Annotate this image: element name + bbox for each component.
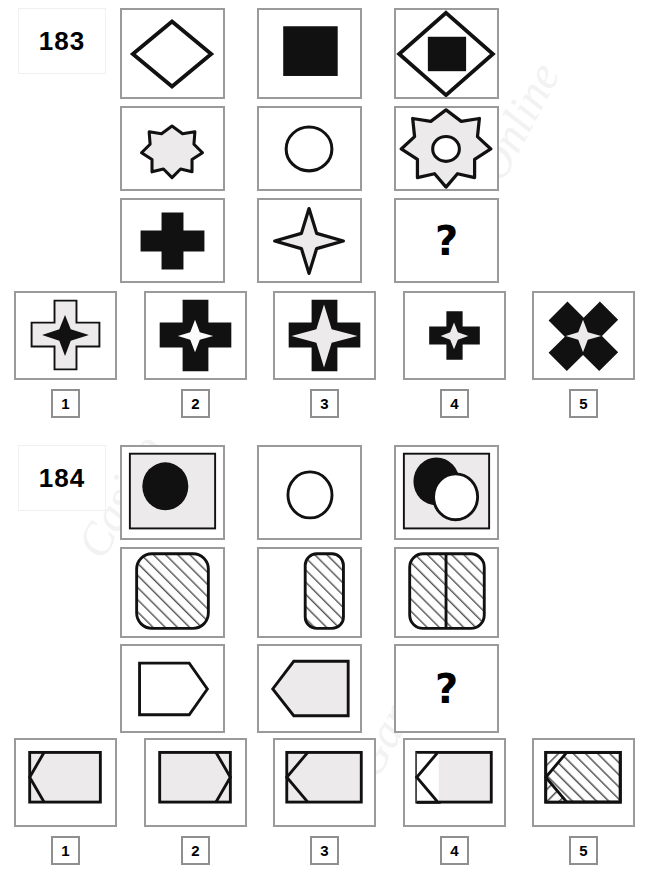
question-mark: ? bbox=[396, 646, 497, 731]
puzzle-number-box: 183 bbox=[18, 8, 106, 74]
cell-r3c1[interactable] bbox=[120, 198, 225, 283]
option-number-5[interactable]: 5 bbox=[569, 389, 598, 418]
cell-r3c1[interactable] bbox=[120, 644, 225, 733]
cell-r1c2[interactable] bbox=[257, 8, 362, 99]
option-number-4[interactable]: 4 bbox=[440, 389, 469, 418]
cell-r3c3[interactable]: ? bbox=[394, 198, 499, 283]
option-number-1[interactable]: 1 bbox=[51, 836, 80, 865]
cell-r1c2[interactable] bbox=[257, 445, 362, 540]
option-3[interactable] bbox=[273, 738, 376, 827]
cell-r1c3[interactable] bbox=[394, 445, 499, 540]
option-number-label: 1 bbox=[61, 395, 69, 412]
option-5[interactable] bbox=[532, 291, 635, 380]
cell-r1c1[interactable] bbox=[120, 8, 225, 99]
option-5[interactable] bbox=[532, 738, 635, 827]
option-number-label: 4 bbox=[450, 395, 458, 412]
option-2[interactable] bbox=[144, 738, 247, 827]
option-number-label: 3 bbox=[320, 395, 328, 412]
option-number-label: 1 bbox=[61, 842, 69, 859]
option-4[interactable] bbox=[403, 291, 506, 380]
option-4[interactable] bbox=[403, 738, 506, 827]
option-number-3[interactable]: 3 bbox=[310, 836, 339, 865]
question-mark: ? bbox=[396, 200, 497, 281]
option-1[interactable] bbox=[14, 738, 117, 827]
option-number-1[interactable]: 1 bbox=[51, 389, 80, 418]
option-number-3[interactable]: 3 bbox=[310, 389, 339, 418]
option-number-label: 4 bbox=[450, 842, 458, 859]
cell-r2c3[interactable] bbox=[394, 106, 499, 191]
option-2[interactable] bbox=[144, 291, 247, 380]
cell-r2c2[interactable] bbox=[257, 106, 362, 191]
cell-r1c3[interactable] bbox=[394, 8, 499, 99]
option-number-label: 5 bbox=[579, 395, 587, 412]
option-number-label: 5 bbox=[579, 842, 587, 859]
option-number-label: 3 bbox=[320, 842, 328, 859]
option-3[interactable] bbox=[273, 291, 376, 380]
cell-r2c1[interactable] bbox=[120, 547, 225, 638]
option-number-2[interactable]: 2 bbox=[181, 389, 210, 418]
cell-r2c2[interactable] bbox=[257, 547, 362, 638]
puzzle-number: 183 bbox=[39, 26, 85, 57]
puzzle-number: 184 bbox=[39, 463, 85, 494]
cell-r3c3[interactable]: ? bbox=[394, 644, 499, 733]
option-number-4[interactable]: 4 bbox=[440, 836, 469, 865]
cell-r1c1[interactable] bbox=[120, 445, 225, 540]
puzzle-number-box: 184 bbox=[18, 445, 106, 511]
option-number-5[interactable]: 5 bbox=[569, 836, 598, 865]
cell-r2c1[interactable] bbox=[120, 106, 225, 191]
option-number-label: 2 bbox=[191, 842, 199, 859]
cell-r3c2[interactable] bbox=[257, 198, 362, 283]
cell-r3c2[interactable] bbox=[257, 644, 362, 733]
option-number-label: 2 bbox=[191, 395, 199, 412]
option-number-2[interactable]: 2 bbox=[181, 836, 210, 865]
cell-r2c3[interactable] bbox=[394, 547, 499, 638]
option-1[interactable] bbox=[14, 291, 117, 380]
